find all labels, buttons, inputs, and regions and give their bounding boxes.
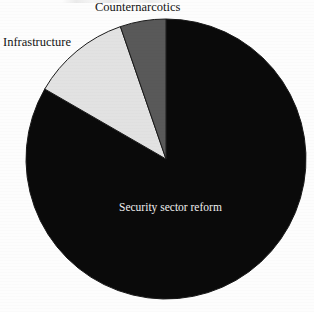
pie-chart-figure: Counternarcotics Infrastructure Security… [0,0,314,312]
slice-label-counternarcotics: Counternarcotics [95,1,180,15]
slice-label-security-sector-reform: Security sector reform [119,201,222,214]
slice-label-infrastructure: Infrastructure [3,36,71,50]
